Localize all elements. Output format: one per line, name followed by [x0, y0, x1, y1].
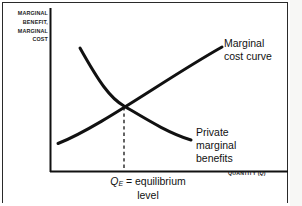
- equilibrium-caption-line-2: level: [72, 189, 224, 202]
- x-axis-label: QUANTITY (Q): [228, 170, 266, 176]
- pmb-label-line-2: marginal: [196, 139, 236, 152]
- y-axis-label-line-1: MARGINAL: [4, 9, 48, 18]
- equilibrium-caption-line-1: QE = equilibrium: [72, 175, 224, 189]
- figure-root: MARGINAL BENEFIT, MARGINAL COST QUANTITY…: [0, 0, 302, 206]
- x-axis-label-prefix: QUANTITY (: [228, 170, 260, 176]
- equilibrium-text: = equilibrium: [123, 175, 186, 187]
- private-marginal-benefits-label: Private marginal benefits: [196, 126, 236, 164]
- y-axis-label-line-3: MARGINAL: [4, 27, 48, 36]
- marginal-cost-curve-label: Marginal cost curve: [224, 37, 272, 63]
- pmb-label-line-3: benefits: [196, 152, 236, 165]
- y-axis-label-line-4: COST: [4, 35, 48, 44]
- equilibrium-caption: QE = equilibrium level: [72, 175, 224, 202]
- marginal-cost-label-line-1: Marginal: [224, 37, 272, 50]
- x-axis-label-suffix: ): [264, 170, 266, 176]
- marginal-cost-label-line-2: cost curve: [224, 50, 272, 63]
- y-axis-label: MARGINAL BENEFIT, MARGINAL COST: [4, 9, 48, 44]
- private-marginal-benefits-curve: [80, 48, 191, 140]
- y-axis-label-line-2: BENEFIT,: [4, 18, 48, 27]
- pmb-label-line-1: Private: [196, 126, 236, 139]
